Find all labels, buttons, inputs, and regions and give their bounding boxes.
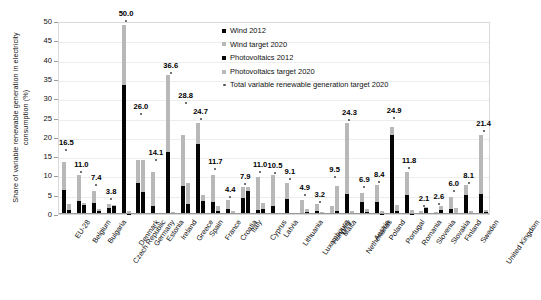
legend-item: Wind target 2020	[222, 38, 388, 52]
legend-label: Wind target 2020	[230, 38, 287, 52]
legend-item: Total variable renewable generation targ…	[222, 78, 388, 92]
bar-wind	[345, 123, 349, 214]
bar-segment-wind-2012	[196, 144, 200, 214]
total-target-marker	[155, 159, 157, 161]
y-axis-tick-label: 40	[32, 56, 52, 65]
total-target-marker	[95, 184, 97, 186]
bar-value-label: 21.4	[470, 119, 498, 128]
bar-wind	[226, 200, 230, 214]
legend-item: Photovoltaics 2012	[222, 51, 388, 65]
bar-segment-wind-2012	[479, 194, 483, 214]
bar-wind	[271, 175, 275, 214]
bar-segment-wind-2012	[345, 194, 349, 214]
bar-wind	[360, 193, 364, 214]
bar-wind	[464, 185, 468, 214]
bar-wind	[300, 200, 304, 214]
y-axis-tick-label: 5	[32, 191, 52, 200]
bar-value-label: 24.7	[187, 107, 215, 116]
y-axis-tick-label: 45	[32, 36, 52, 45]
x-axis-label: United Kingdom	[504, 218, 541, 266]
bar-segment-wind-2012	[62, 190, 66, 214]
bar-wind	[62, 162, 66, 214]
bar-value-label: 36.6	[157, 61, 185, 70]
bar-wind	[449, 197, 453, 214]
total-target-marker	[229, 196, 231, 198]
bar-value-label: 7.4	[82, 173, 110, 182]
y-axis-tick-mark	[54, 215, 58, 216]
legend-swatch-dark-icon	[222, 56, 226, 60]
total-target-marker	[244, 183, 246, 185]
bar-wind	[92, 191, 96, 214]
total-target-marker	[453, 190, 455, 192]
total-target-marker	[214, 168, 216, 170]
legend-label: Photovoltaics target 2020	[230, 65, 315, 79]
total-target-marker	[363, 186, 365, 188]
bar-value-label: 24.3	[335, 108, 363, 117]
bar-value-label: 9.1	[276, 167, 304, 176]
total-target-marker	[65, 149, 67, 151]
total-target-marker	[289, 178, 291, 180]
bar-value-label: 11.8	[395, 156, 423, 165]
bar-segment-wind-2012	[285, 199, 289, 214]
total-target-marker	[110, 198, 112, 200]
total-target-marker	[185, 102, 187, 104]
bar-segment-wind-2012	[241, 198, 245, 214]
total-target-marker	[483, 130, 485, 132]
total-target-marker	[80, 171, 82, 173]
bar-segment-pv-2012	[201, 201, 205, 215]
y-axis-tick-label: 15	[32, 152, 52, 161]
bar-value-label: 24.9	[380, 106, 408, 115]
total-target-marker	[200, 118, 202, 120]
bar-wind	[479, 135, 483, 214]
legend-label: Wind 2012	[230, 24, 266, 38]
total-target-marker	[468, 182, 470, 184]
total-target-marker	[259, 171, 261, 173]
y-axis-tick-label: 20	[32, 133, 52, 142]
legend-label: Total variable renewable generation targ…	[230, 78, 388, 92]
bar-photovoltaics	[335, 186, 339, 214]
bar-wind	[285, 183, 289, 214]
bar-segment-pv-2012	[141, 192, 145, 214]
bar-photovoltaics	[186, 183, 190, 214]
legend-swatch-light-icon	[222, 42, 226, 46]
legend-item: Wind 2012	[222, 24, 388, 38]
bar-photovoltaics	[246, 187, 250, 214]
bar-wind	[136, 160, 140, 214]
bar-segment-wind-2012	[122, 85, 126, 214]
bar-value-label: 50.0	[112, 9, 140, 18]
bar-wind	[211, 175, 215, 214]
y-axis-tick-label: 35	[32, 75, 52, 84]
bar-value-label: 28.8	[172, 91, 200, 100]
bar-wind	[241, 187, 245, 214]
bar-value-label: 26.0	[127, 102, 155, 111]
bar-wind	[151, 172, 155, 214]
total-target-marker	[319, 201, 321, 203]
total-target-marker	[438, 203, 440, 205]
legend-item: Photovoltaics target 2020	[222, 65, 388, 79]
bar-segment-wind-2012	[464, 195, 468, 214]
bar-value-label: 11.7	[201, 157, 229, 166]
total-target-marker	[125, 20, 127, 22]
legend-swatch-light-icon	[222, 70, 226, 74]
total-target-marker	[140, 113, 142, 115]
bar-value-label: 16.5	[52, 138, 80, 147]
bar-wind	[256, 177, 260, 214]
total-target-marker	[408, 167, 410, 169]
bar-photovoltaics	[201, 195, 205, 214]
chart-legend: Wind 2012Wind target 2020Photovoltaics 2…	[222, 24, 388, 92]
bar-wind	[196, 123, 200, 214]
total-target-marker	[170, 72, 172, 74]
bar-wind	[405, 172, 409, 214]
legend-label: Photovoltaics 2012	[230, 51, 293, 65]
bar-segment-wind-2012	[136, 183, 140, 214]
bar-wind	[390, 127, 394, 214]
bar-wind	[122, 25, 126, 214]
bar-wind	[77, 175, 81, 214]
bar-segment-wind-target-2020	[256, 177, 260, 214]
bar-value-label: 11.0	[67, 160, 95, 169]
bar-photovoltaics	[141, 160, 145, 214]
bar-wind	[181, 135, 185, 214]
y-axis-tick-label: 0	[32, 210, 52, 219]
y-axis-tick-label: 10	[32, 171, 52, 180]
